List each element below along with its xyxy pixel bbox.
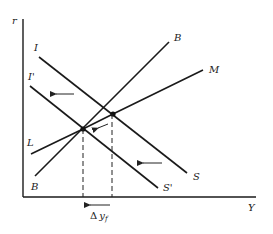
label-B-top: B (173, 32, 181, 43)
label-L: L (26, 137, 34, 148)
curve-B (35, 42, 169, 176)
delta-y-label: Δyf (90, 210, 109, 223)
label-S-prime: S' (163, 182, 173, 193)
initial-equilibrium-point (110, 111, 115, 116)
curve-L-M (31, 70, 203, 154)
x-axis-label: Y (248, 202, 256, 213)
label-I: I (33, 42, 39, 53)
y-axis-label: r (12, 15, 18, 26)
label-M: M (208, 64, 220, 75)
label-I-prime: I' (27, 71, 35, 82)
label-B-bottom: B (30, 181, 38, 192)
economic-diagram: r Y I S I' S' B B L M Δyf (0, 0, 273, 234)
equilibrium-shift-arrow (98, 124, 108, 128)
label-S: S (193, 171, 200, 182)
